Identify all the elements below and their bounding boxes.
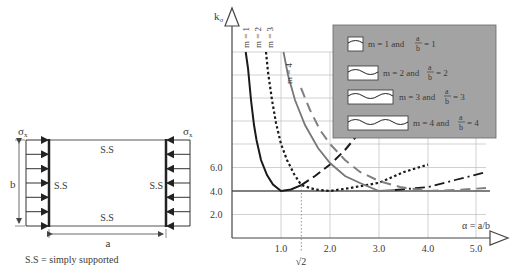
label-m2: m = 2 <box>253 27 263 48</box>
curve-m3-continuation <box>395 172 486 190</box>
x-tick-2: 2.0 <box>324 243 337 254</box>
x-tick-5: 5.0 <box>470 243 483 254</box>
x-axis-arrow-icon <box>490 231 508 245</box>
sigma-right-label: σx <box>183 125 193 139</box>
svg-text:a: a <box>445 87 449 96</box>
svg-text:b: b <box>416 44 420 53</box>
label-m4: m = 4 <box>284 62 294 84</box>
svg-text:= 4: = 4 <box>467 118 479 128</box>
plate-diagram: σx σx S.S S.S S.S S.S b a S.S = simply s… <box>10 125 193 265</box>
svg-text:b: b <box>445 97 449 106</box>
left-load-arrows <box>26 140 48 226</box>
svg-text:b: b <box>428 73 432 82</box>
diagram-canvas: σx σx S.S S.S S.S S.S b a S.S = simply s… <box>0 0 514 273</box>
svg-text:m = 2 and: m = 2 and <box>383 68 420 78</box>
svg-text:= 2: = 2 <box>436 68 448 78</box>
x-axis-label: α = a/b <box>462 220 490 231</box>
sqrt2-label: √2 <box>296 256 307 267</box>
ss-note: S.S = simply supported <box>25 254 118 265</box>
edge-right-label: S.S <box>149 180 163 191</box>
svg-text:= 1: = 1 <box>424 39 436 49</box>
edge-bottom-label: S.S <box>100 212 114 223</box>
legend: m = 1 and a b = 1 m = 2 and a b = 2 m = <box>333 25 496 138</box>
y-axis-arrow-icon <box>225 8 239 26</box>
x-tick-3: 3.0 <box>373 243 386 254</box>
sigma-left-label: σx <box>18 125 28 139</box>
svg-text:b: b <box>459 123 463 132</box>
y-tick-4: 4.0 <box>210 186 223 197</box>
dim-a-label: a <box>106 237 111 249</box>
label-m1: m = 1 <box>241 27 251 48</box>
svg-text:a: a <box>428 63 432 72</box>
y-axis-label: kσ <box>214 10 224 24</box>
edge-top-label: S.S <box>100 144 114 155</box>
y-tick-2: 2.0 <box>210 209 223 220</box>
svg-text:= 3: = 3 <box>453 92 465 102</box>
edge-left-label: S.S <box>54 180 68 191</box>
label-m3: m = 3 <box>265 26 275 48</box>
svg-text:a: a <box>459 113 463 122</box>
svg-text:m = 1 and: m = 1 and <box>368 39 405 49</box>
right-load-arrows <box>167 140 190 226</box>
x-tick-1: 1.0 <box>275 243 288 254</box>
svg-text:m = 4 and: m = 4 and <box>413 118 450 128</box>
dim-b-label: b <box>10 178 16 190</box>
dimension-b <box>15 140 25 226</box>
x-tick-4: 4.0 <box>422 243 435 254</box>
buckling-chart: 6.0 4.0 2.0 1.0 2.0 3.0 4.0 5.0 √2 α = a… <box>210 8 508 267</box>
svg-text:m = 3 and: m = 3 and <box>399 92 436 102</box>
svg-text:a: a <box>416 34 420 43</box>
y-tick-6: 6.0 <box>210 162 223 173</box>
